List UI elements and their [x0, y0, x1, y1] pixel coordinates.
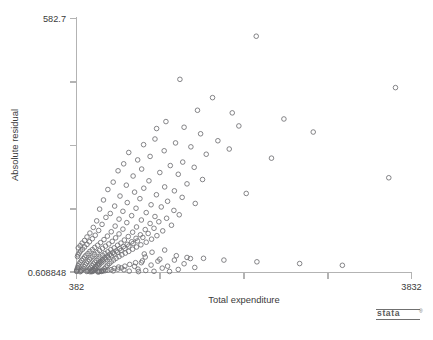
- data-point: [178, 77, 183, 82]
- data-point: [201, 256, 206, 261]
- data-point: [222, 258, 227, 263]
- data-point: [104, 215, 109, 220]
- data-point: [111, 180, 116, 185]
- data-point: [125, 200, 130, 205]
- data-point: [96, 228, 101, 233]
- data-point: [269, 156, 274, 161]
- data-point: [126, 234, 131, 239]
- data-point: [254, 34, 259, 39]
- data-point: [148, 221, 153, 226]
- data-point: [97, 207, 102, 212]
- data-point: [146, 231, 151, 236]
- data-point: [121, 162, 126, 167]
- data-point: [176, 267, 181, 272]
- stata-logo: stata ®: [376, 309, 423, 320]
- y-axis-min-label: 0.608848: [28, 268, 66, 278]
- y-axis-title: Absolute residual: [9, 109, 20, 181]
- data-point: [172, 258, 177, 263]
- data-point: [125, 220, 130, 225]
- data-point: [200, 177, 205, 182]
- x-axis-title: Total expenditure: [208, 294, 279, 305]
- data-point: [148, 154, 153, 159]
- data-point: [216, 138, 221, 143]
- data-point: [182, 125, 187, 130]
- data-point: [139, 243, 144, 248]
- data-point: [297, 261, 302, 266]
- data-point: [139, 218, 144, 223]
- data-point: [126, 150, 131, 155]
- data-point: [108, 211, 113, 216]
- data-point: [169, 223, 174, 228]
- data-point: [237, 124, 242, 129]
- data-point: [141, 186, 146, 191]
- data-point: [165, 264, 170, 269]
- data-point: [135, 158, 140, 163]
- data-point: [164, 119, 169, 124]
- data-point: [131, 174, 136, 179]
- data-point: [134, 225, 139, 230]
- data-point: [149, 263, 154, 268]
- data-point-group: [74, 34, 397, 274]
- data-point: [158, 170, 163, 175]
- data-point: [154, 126, 159, 131]
- data-point: [116, 168, 121, 173]
- data-point: [141, 142, 146, 147]
- data-point: [144, 210, 149, 215]
- data-point: [94, 219, 99, 224]
- data-point: [109, 229, 114, 234]
- data-point: [154, 192, 159, 197]
- data-point: [121, 209, 126, 214]
- data-point: [162, 248, 167, 253]
- y-axis-ticks: [70, 19, 77, 273]
- data-point: [172, 189, 177, 194]
- data-point: [393, 85, 398, 90]
- data-point: [311, 130, 316, 135]
- y-axis-max-label: 582.7: [43, 14, 66, 24]
- data-point: [173, 141, 178, 146]
- data-point: [159, 205, 164, 210]
- data-point: [165, 199, 170, 204]
- data-point: [117, 232, 122, 237]
- scatter-plot: 582.7 0.608848 382 3832 Total expenditur…: [0, 0, 433, 340]
- data-point: [153, 137, 158, 142]
- data-point: [117, 217, 122, 222]
- data-point: [386, 175, 391, 180]
- data-point: [180, 160, 185, 165]
- data-point: [204, 152, 209, 157]
- data-point: [230, 111, 235, 116]
- data-point: [195, 108, 200, 113]
- chart-page: 582.7 0.608848 382 3832 Total expenditur…: [0, 0, 433, 340]
- data-point: [98, 240, 103, 245]
- data-point: [210, 95, 215, 100]
- data-point: [100, 222, 105, 227]
- data-point: [255, 260, 260, 265]
- data-point: [155, 233, 160, 238]
- logo-wordmark: stata: [377, 308, 400, 319]
- data-point: [192, 165, 197, 170]
- data-point: [164, 216, 169, 221]
- data-point: [118, 194, 123, 199]
- data-point: [162, 148, 167, 153]
- data-point: [132, 190, 137, 195]
- data-point: [157, 219, 162, 224]
- data-point: [177, 212, 182, 217]
- x-axis-min-label: 382: [69, 282, 84, 292]
- data-point: [150, 250, 155, 255]
- data-point: [144, 240, 149, 245]
- data-point: [160, 229, 165, 234]
- data-point: [244, 191, 249, 196]
- data-point: [142, 252, 147, 257]
- data-point: [149, 237, 154, 242]
- data-point: [134, 206, 139, 211]
- data-point: [182, 261, 187, 266]
- data-point: [130, 230, 135, 235]
- data-point: [227, 147, 232, 152]
- data-point: [160, 266, 165, 271]
- data-point: [152, 226, 157, 231]
- data-point: [153, 214, 158, 219]
- data-point: [282, 117, 287, 122]
- data-point: [180, 195, 185, 200]
- data-point: [340, 263, 345, 268]
- data-point: [167, 269, 172, 274]
- logo-trademark-icon: ®: [419, 308, 423, 314]
